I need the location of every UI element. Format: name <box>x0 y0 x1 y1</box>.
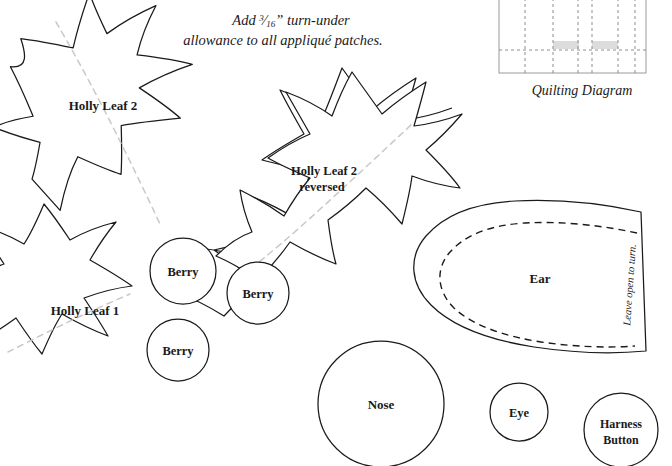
pattern-sheet: Holly Leaf 2 Holly Leaf 2 reversed Holly… <box>0 0 672 466</box>
eye-label: Eye <box>509 406 530 420</box>
holly-leaf-2-label: Holly Leaf 2 <box>69 98 138 113</box>
instruction-line-1: Add 3⁄16” turn-under <box>231 12 350 29</box>
piece-berry-1: Berry <box>150 238 216 304</box>
piece-eye: Eye <box>490 383 548 441</box>
berry-2-label: Berry <box>242 287 274 301</box>
berry-3-label: Berry <box>162 344 194 358</box>
piece-harness-button: Harness Button <box>584 393 658 466</box>
harness-button-label-line1: Harness <box>600 417 642 431</box>
piece-holly-leaf-1: Holly Leaf 1 <box>0 204 132 354</box>
holly-leaf-1-outline <box>0 204 132 354</box>
instruction-text: Add 3⁄16” turn-under allowance to all ap… <box>183 12 382 48</box>
berry-1-label: Berry <box>167 265 199 279</box>
holly-leaf-1-label: Holly Leaf 1 <box>51 303 120 318</box>
piece-ear: Ear Leave open to turn. <box>414 200 646 352</box>
pattern-canvas: Holly Leaf 2 Holly Leaf 2 reversed Holly… <box>0 0 672 466</box>
quilting-diagram-box <box>499 0 646 73</box>
nose-label: Nose <box>368 397 395 412</box>
ear-label: Ear <box>530 271 551 286</box>
piece-berry-3: Berry <box>147 319 209 381</box>
harness-button-label-line2: Button <box>603 433 639 447</box>
quilting-diagram: Quilting Diagram <box>499 0 646 98</box>
quilting-diagram-caption: Quilting Diagram <box>532 83 633 98</box>
instruction-line-2: allowance to all appliqué patches. <box>183 32 382 48</box>
instruction-line1-prefix: Add <box>231 12 259 28</box>
holly-leaf-2-reversed-label-line2: reversed <box>299 180 345 194</box>
piece-nose: Nose <box>318 341 444 466</box>
holly-leaf-2-reversed-label-line1: Holly Leaf 2 <box>291 164 357 178</box>
piece-berry-2: Berry <box>227 262 289 324</box>
quilting-diagram-block-2 <box>592 41 618 49</box>
quilting-diagram-block-1 <box>553 41 579 49</box>
instruction-line1-suffix: ” turn-under <box>275 12 350 28</box>
